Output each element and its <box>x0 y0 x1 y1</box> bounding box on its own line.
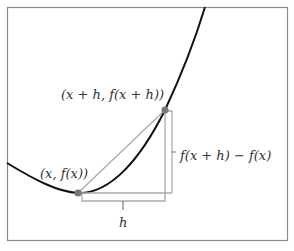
point-x-plus-h <box>161 106 168 113</box>
point-x <box>74 189 81 196</box>
label-run: h <box>119 215 127 230</box>
label-point-x-plus-h: (x + h, f(x + h)) <box>61 87 164 102</box>
secant-diagram: (x, f(x)) (x + h, f(x + h)) f(x + h) − f… <box>0 0 294 251</box>
diagram-frame <box>8 8 288 241</box>
label-point-x: (x, f(x)) <box>40 166 88 181</box>
label-rise: f(x + h) − f(x) <box>179 148 271 163</box>
